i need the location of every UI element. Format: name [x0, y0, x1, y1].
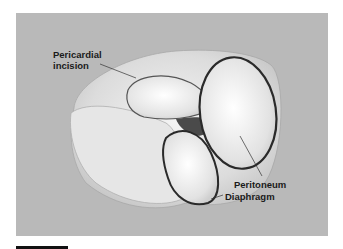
label-pericardial-incision-line1: Pericardial [53, 49, 102, 60]
anatomy-illustration [16, 13, 328, 236]
illustration-panel [16, 13, 328, 236]
label-peritoneum: Peritoneum [234, 179, 286, 190]
label-pericardial-incision-line2: incision [53, 60, 89, 71]
label-diaphragm: Diaphragm [225, 191, 275, 202]
